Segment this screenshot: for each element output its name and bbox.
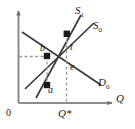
- x-axis-label: Q: [116, 93, 124, 104]
- supply-demand-figure: S1 S0 D0 b t e a Q 0 Q*: [0, 0, 135, 129]
- marker-point-t: [64, 31, 70, 37]
- curve-label-S1: S1: [75, 5, 84, 19]
- point-label-t: t: [70, 42, 73, 52]
- origin-label: 0: [6, 108, 11, 118]
- point-label-b: b: [40, 43, 45, 53]
- point-label-a: a: [48, 85, 53, 95]
- point-label-e: e: [70, 62, 74, 72]
- curve-label-D0-base: D: [98, 76, 106, 88]
- curve-label-D0-sub: 0: [106, 83, 110, 91]
- demand-curve-D0: [22, 32, 101, 85]
- marker-point-b: [44, 53, 50, 59]
- curve-label-S0: S0: [93, 20, 102, 34]
- curve-label-S1-sub: 1: [81, 11, 85, 19]
- curve-label-S0-sub: 0: [99, 26, 103, 34]
- x-tick-label-qstar: Q*: [58, 108, 71, 119]
- curve-label-D0: D0: [98, 77, 109, 91]
